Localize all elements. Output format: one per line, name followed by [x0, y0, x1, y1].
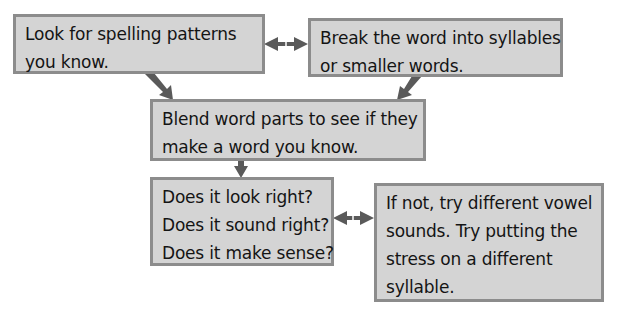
- box-text-line: Does it look right?: [162, 183, 331, 211]
- box-blend-parts: Blend word parts to see if they make a w…: [150, 99, 426, 161]
- box-text-line: you know.: [25, 48, 262, 76]
- box-text-line: syllable.: [386, 273, 601, 301]
- arrow-blend-to-check: [234, 160, 248, 178]
- box-text-line: stress on a different: [386, 245, 601, 273]
- box-text-line: make a word you know.: [162, 133, 423, 161]
- box-spelling-patterns: Look for spelling patterns you know.: [13, 14, 265, 74]
- box-text-line: Break the word into syllables: [320, 24, 560, 52]
- box-check-questions: Does it look right? Does it sound right?…: [150, 177, 334, 266]
- box-text-line: or smaller words.: [320, 52, 560, 80]
- box-break-word: Break the word into syllables or smaller…: [308, 18, 563, 77]
- double-arrow-check-to-try: [333, 211, 374, 225]
- arrow-spelling-to-blend: [144, 73, 173, 100]
- box-try-different: If not, try different vowel sounds. Try …: [374, 183, 604, 302]
- box-text-line: Does it sound right?: [162, 211, 331, 239]
- box-text-line: Blend word parts to see if they: [162, 105, 423, 133]
- box-text-line: Look for spelling patterns: [25, 20, 262, 48]
- box-text-line: sounds. Try putting the: [386, 217, 601, 245]
- double-arrow-spelling-to-break: [264, 37, 308, 51]
- box-text-line: Does it make sense?: [162, 239, 331, 267]
- box-text-line: If not, try different vowel: [386, 189, 601, 217]
